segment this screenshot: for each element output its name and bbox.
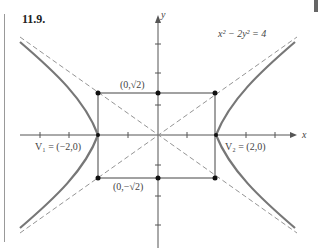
vertex-v2-label: V₂ = (2,0)	[225, 142, 266, 152]
hyperbola-diagram	[0, 0, 320, 249]
top-point-label: (0,√2)	[120, 80, 145, 90]
y-axis-label: y	[161, 10, 165, 20]
vertex-v1-label: V₁ = (−2,0)	[35, 142, 81, 152]
bottom-point-label: (0,−√2)	[113, 182, 143, 192]
x-axis-arrow-icon	[290, 132, 297, 138]
x-axis	[20, 132, 293, 138]
x-axis-label: x	[302, 130, 306, 140]
equation-label: x² − 2y² = 4	[218, 29, 266, 39]
